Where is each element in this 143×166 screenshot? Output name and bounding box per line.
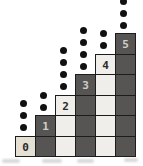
dot (100, 42, 107, 49)
cutoff-caption-smudge (42, 159, 62, 163)
grid-cell (115, 136, 136, 158)
grid-cell (95, 115, 116, 137)
cutoff-caption-smudge (124, 158, 138, 162)
numbered-cell-4: 4 (95, 54, 116, 76)
dot (60, 47, 67, 54)
dot (80, 63, 87, 70)
grid-cell (115, 95, 136, 117)
dot (80, 51, 87, 58)
grid-cell (55, 136, 76, 158)
numbered-cell-3: 3 (75, 74, 96, 96)
dot (40, 104, 47, 111)
numbered-cell-5: 5 (115, 33, 136, 55)
grid-cell (35, 136, 56, 158)
dot (120, 22, 127, 29)
numbered-cell-1: 1 (35, 115, 56, 137)
grid-cell (115, 74, 136, 96)
grid-cell (115, 54, 136, 76)
dot (120, 10, 127, 17)
grid-cell (75, 136, 96, 158)
grid-cell (75, 115, 96, 137)
staircase-figure: 012345 (0, 0, 143, 166)
dot (20, 112, 27, 119)
dot (80, 39, 87, 46)
dot (60, 71, 67, 78)
numbered-cell-2: 2 (55, 95, 76, 117)
grid-cell (95, 95, 116, 117)
grid-cell (55, 115, 76, 137)
dot (120, 0, 127, 5)
dot (60, 83, 67, 90)
dot (40, 92, 47, 99)
grid-cell (115, 115, 136, 137)
dot (20, 100, 27, 107)
dot (20, 124, 27, 131)
grid-cell (95, 74, 116, 96)
numbered-cell-0: 0 (15, 136, 36, 158)
dot (60, 59, 67, 66)
cutoff-caption-smudge (77, 159, 94, 163)
dot (80, 27, 87, 34)
grid-cell (75, 95, 96, 117)
dot (100, 30, 107, 37)
grid-cell (95, 136, 116, 158)
cutoff-caption-smudge (2, 159, 20, 163)
